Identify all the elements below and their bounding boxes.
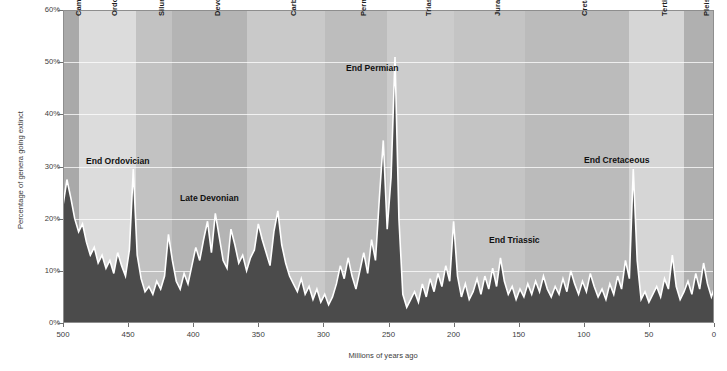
x-tick-mark-100: [584, 323, 585, 327]
y-tick-mark-50: [58, 62, 63, 63]
event-label-end-cretaceous: End Cretaceous: [584, 155, 649, 165]
plot-area: [63, 10, 714, 323]
x-tick-label-150: 150: [499, 330, 539, 339]
x-tick-mark-400: [193, 323, 194, 327]
y-tick-label-50: 50%: [22, 57, 60, 66]
period-label-permian: Permian: [359, 0, 368, 16]
y-tick-mark-60: [58, 10, 63, 11]
event-label-end-permian: End Permian: [346, 63, 399, 73]
period-label-carboniferous: Carboniferous: [289, 0, 298, 16]
x-tick-label-0: 0: [694, 330, 727, 339]
x-tick-label-400: 400: [173, 330, 213, 339]
event-label-late-devonian: Late Devonian: [180, 193, 239, 203]
period-label-silurian: Silurian: [157, 0, 166, 16]
period-label-pleistogene: Pleistogene: [702, 0, 711, 16]
y-tick-mark-10: [58, 271, 63, 272]
period-label-cambrian: Cambrian: [74, 0, 83, 16]
x-tick-mark-150: [519, 323, 520, 327]
extinction-intensity-chart: CambrianOrdovicianSilurianDevonianCarbon…: [0, 0, 727, 371]
period-label-ordovician: Ordovician: [110, 0, 119, 16]
x-tick-mark-50: [649, 323, 650, 327]
x-tick-mark-300: [323, 323, 324, 327]
y-tick-label-20: 20%: [22, 214, 60, 223]
period-label-triassic: Triassic: [424, 0, 433, 16]
x-tick-label-300: 300: [303, 330, 343, 339]
x-tick-mark-350: [258, 323, 259, 327]
y-tick-label-10: 10%: [22, 266, 60, 275]
x-tick-mark-450: [128, 323, 129, 327]
x-tick-mark-500: [63, 323, 64, 327]
y-tick-label-60: 60%: [22, 5, 60, 14]
x-tick-label-50: 50: [629, 330, 669, 339]
x-tick-label-500: 500: [43, 330, 83, 339]
y-tick-mark-40: [58, 114, 63, 115]
event-label-end-ordovician: End Ordovician: [86, 156, 150, 166]
period-label-tertiary: Tertiary: [660, 0, 669, 16]
period-label-devonian: Devonian: [213, 0, 222, 16]
x-tick-label-250: 250: [369, 330, 409, 339]
y-tick-label-30: 30%: [22, 162, 60, 171]
x-tick-mark-0: [714, 323, 715, 327]
y-axis-title: Percentage of genera going extinct: [16, 111, 25, 229]
x-tick-label-350: 350: [238, 330, 278, 339]
x-axis-title: Millions of years ago: [349, 351, 418, 360]
period-label-cretaceous: Cretaceous: [580, 0, 589, 16]
period-label-jurassic: Jurassic: [493, 0, 502, 16]
x-tick-mark-200: [454, 323, 455, 327]
y-tick-label-40: 40%: [22, 109, 60, 118]
y-tick-mark-20: [58, 219, 63, 220]
event-label-end-triassic: End Triassic: [489, 235, 540, 245]
x-tick-label-200: 200: [434, 330, 474, 339]
extinction-curve: [63, 10, 714, 323]
y-tick-mark-30: [58, 167, 63, 168]
x-tick-label-450: 450: [108, 330, 148, 339]
x-tick-mark-250: [389, 323, 390, 327]
y-tick-label-0: 0%: [22, 318, 60, 327]
x-tick-label-100: 100: [564, 330, 604, 339]
